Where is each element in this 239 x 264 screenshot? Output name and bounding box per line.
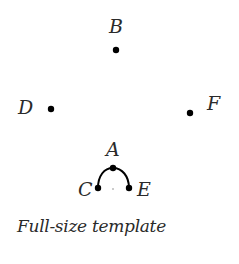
label-e: E: [136, 178, 151, 200]
label-a: A: [104, 138, 120, 160]
point-a: A: [104, 138, 120, 171]
label-c: C: [78, 178, 93, 200]
label-b: B: [108, 15, 123, 37]
center-mark: [112, 188, 114, 190]
label-d: D: [17, 96, 33, 118]
point-f: F: [187, 92, 221, 116]
caption: Full-size template: [17, 216, 166, 236]
point-b: B: [108, 15, 123, 53]
point-d: D: [17, 96, 54, 118]
label-f: F: [206, 92, 221, 114]
point-e: E: [126, 178, 151, 200]
